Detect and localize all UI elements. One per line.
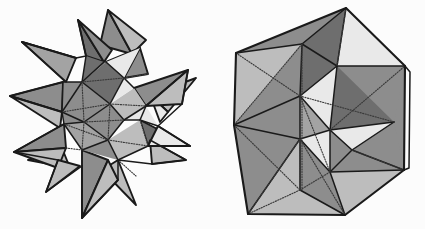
figure-canvas: .ol { stroke:#1a1a1a; stroke-width:1.9; … [0, 0, 425, 229]
